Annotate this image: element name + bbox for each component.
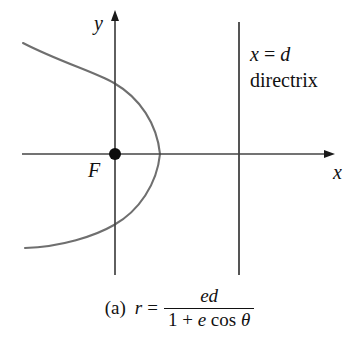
focus-point	[109, 148, 121, 160]
caption-variable: r	[135, 297, 142, 319]
figure-caption: (a) r = ed 1 + e cos θ	[0, 286, 359, 330]
directrix-equation-operator: =	[264, 43, 275, 65]
directrix-equation: x = d	[250, 42, 355, 68]
caption-equals: =	[147, 297, 158, 319]
denominator-plus: +	[182, 309, 193, 330]
fraction-denominator: 1 + e cos θ	[164, 309, 254, 331]
directrix-equation-lhs: x	[250, 43, 259, 65]
conic-curve	[23, 43, 160, 248]
x-axis-label: x	[333, 162, 342, 182]
denominator-one: 1	[168, 309, 178, 330]
directrix-name: directrix	[250, 68, 355, 94]
denominator-cos: cos	[211, 309, 236, 330]
caption-fraction: ed 1 + e cos θ	[164, 286, 254, 330]
conic-figure: y x F x = d directrix (a) r = ed 1 + e c…	[0, 0, 359, 344]
fraction-numerator: ed	[194, 286, 224, 308]
y-axis-label: y	[94, 13, 103, 33]
focus-label: F	[88, 160, 100, 180]
denominator-eccentricity: e	[198, 309, 206, 330]
denominator-theta: θ	[241, 309, 250, 330]
directrix-equation-rhs: d	[280, 43, 290, 65]
caption-tag: (a)	[105, 297, 126, 319]
directrix-label-group: x = d directrix	[250, 42, 355, 93]
